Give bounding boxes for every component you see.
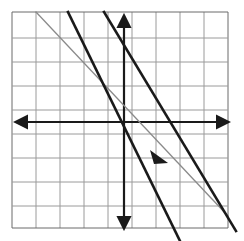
- plotted-lines: [36, 12, 236, 241]
- line-direction-arrowhead: [150, 150, 168, 164]
- graph-figure: [0, 0, 244, 241]
- coordinate-plane: [0, 0, 244, 241]
